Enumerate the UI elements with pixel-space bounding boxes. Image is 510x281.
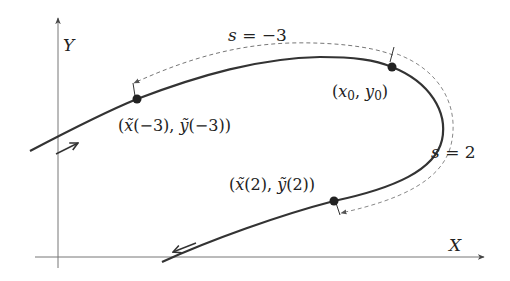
label-s-minus3: s = −3 [228,25,287,45]
tick-2 [336,203,340,215]
label-point-2: (x̃(2), ỹ(2)) [229,175,315,194]
y-axis-label: Y [63,35,76,55]
label-s-2: s = 2 [431,142,476,162]
dashed-arc-s-2 [341,54,453,213]
direction-arrow-forward [56,143,78,154]
point-start [388,63,397,72]
x-axis-label: X [447,235,462,255]
point-minus3 [133,95,142,104]
parametric-curve-diagram: Y X s = −3 s = 2 (x0, y0) (x̃(−3), ỹ(−3)… [0,0,510,281]
point-2 [330,197,339,206]
label-start-point: (x0, y0) [332,82,388,103]
label-point-minus3: (x̃(−3), ỹ(−3)) [118,116,231,135]
direction-arrow-backward [173,243,196,252]
tick-minus3 [133,83,135,96]
